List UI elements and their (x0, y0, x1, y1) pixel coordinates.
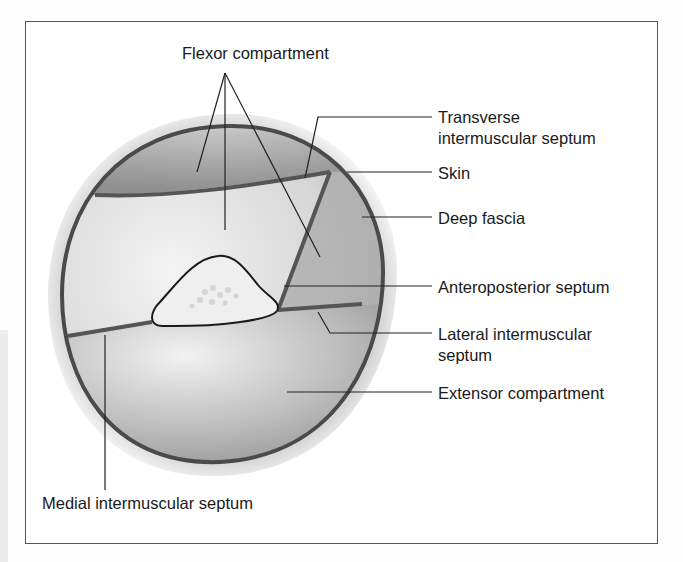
label-extensor-compartment: Extensor compartment (438, 383, 604, 403)
label-lateral-line2: septum (438, 345, 492, 365)
label-deep-fascia: Deep fascia (438, 208, 525, 228)
label-transverse-line1: Transverse (438, 107, 520, 127)
label-flexor-compartment: Flexor compartment (182, 43, 329, 63)
label-lateral-line1: Lateral intermuscular (438, 324, 592, 344)
label-medial-intermuscular-septum: Medial intermuscular septum (42, 493, 253, 513)
label-transverse-line2: intermuscular septum (438, 128, 596, 148)
label-skin: Skin (438, 163, 470, 183)
label-anteroposterior-septum: Anteroposterior septum (438, 277, 610, 297)
